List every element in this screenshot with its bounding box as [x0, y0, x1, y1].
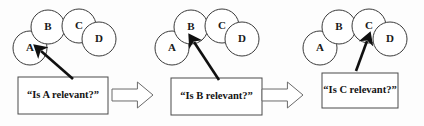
- node-label-c: C: [365, 19, 373, 31]
- node-d[interactable]: D: [225, 22, 259, 56]
- node-label-b: B: [44, 20, 52, 32]
- node-label-b: B: [335, 20, 343, 32]
- panel-3: ABCD“Is C relevant?”: [303, 9, 407, 108]
- panel-1: ABCD“Is A relevant?”: [13, 9, 116, 114]
- flow-arrow-2: [262, 82, 303, 108]
- diagram-canvas: ABCD“Is A relevant?”ABCD“Is B relevant?”…: [0, 0, 424, 126]
- node-label-a: A: [26, 41, 34, 53]
- query-box[interactable]: “Is B relevant?”: [171, 78, 262, 115]
- node-label-c: C: [75, 19, 83, 31]
- relevance-query-diagram: ABCD“Is A relevant?”ABCD“Is B relevant?”…: [0, 0, 424, 126]
- node-d[interactable]: D: [82, 22, 116, 56]
- query-box[interactable]: “Is C relevant?”: [322, 73, 398, 108]
- node-b[interactable]: B: [322, 10, 356, 44]
- pointer-arrow-to-b: [194, 42, 219, 80]
- panel-2: ABCD“Is B relevant?”: [155, 9, 262, 115]
- node-label-d: D: [238, 32, 246, 44]
- node-d[interactable]: D: [373, 22, 407, 56]
- query-text: “Is C relevant?”: [323, 84, 396, 95]
- flow-arrow-1: [112, 82, 153, 108]
- query-text: “Is B relevant?”: [180, 90, 253, 101]
- node-b[interactable]: B: [174, 10, 208, 44]
- pointer-arrow-to-c: [356, 41, 367, 71]
- node-label-a: A: [168, 41, 176, 53]
- node-b[interactable]: B: [31, 10, 65, 44]
- node-label-b: B: [187, 20, 195, 32]
- query-text: “Is A relevant?”: [27, 89, 99, 100]
- panels-group: ABCD“Is A relevant?”ABCD“Is B relevant?”…: [13, 9, 407, 115]
- pointer-arrow-to-a: [41, 51, 73, 79]
- node-label-a: A: [316, 41, 324, 53]
- query-box[interactable]: “Is A relevant?”: [18, 77, 108, 114]
- node-label-c: C: [218, 19, 226, 31]
- node-label-d: D: [95, 32, 103, 44]
- node-label-d: D: [386, 32, 394, 44]
